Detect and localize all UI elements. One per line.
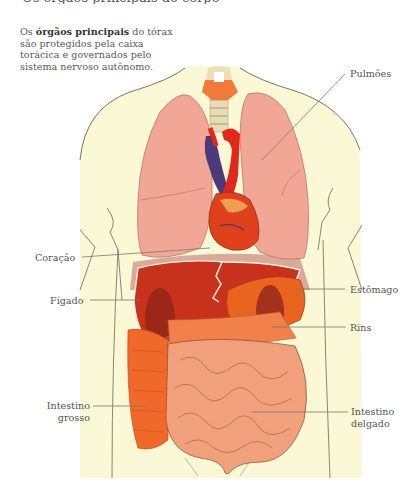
label-small-intestine: Intestino delgado [351,406,394,429]
label-kidneys: Rins [350,322,371,334]
label-heart: Coração [35,252,75,264]
label-large-intestine-line2: grosso [40,412,90,424]
label-small-intestine-line2: delgado [351,418,394,430]
label-stomach: Estômago [350,284,398,296]
label-lungs: Pulmões [350,68,391,80]
label-large-intestine: Intestino grosso [40,400,90,423]
label-liver: Fígado [50,295,84,307]
label-small-intestine-line1: Intestino [351,406,394,418]
label-large-intestine-line1: Intestino [40,400,90,412]
